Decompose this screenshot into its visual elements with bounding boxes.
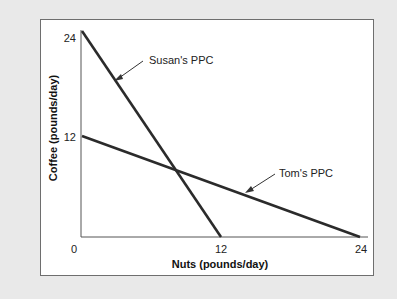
tom-arrowhead-icon bbox=[245, 186, 254, 193]
susan-arrow bbox=[119, 61, 143, 78]
y-tick-24: 24 bbox=[64, 32, 76, 44]
x-tick-12: 12 bbox=[215, 243, 227, 255]
x-tick-24: 24 bbox=[355, 243, 367, 255]
y-tick-12: 12 bbox=[64, 131, 76, 143]
ppc-chart: 24 12 0 12 24 Nuts (pounds/day) Coffee (… bbox=[0, 0, 397, 299]
tom-ppc-line bbox=[82, 136, 360, 237]
tom-ppc-label: Tom's PPC bbox=[279, 167, 333, 179]
x-axis-title: Nuts (pounds/day) bbox=[172, 258, 269, 270]
susan-ppc-label: Susan's PPC bbox=[149, 54, 214, 66]
y-axis-title: Coffee (pounds/day) bbox=[47, 75, 59, 182]
origin-label: 0 bbox=[71, 243, 77, 255]
tom-arrow bbox=[250, 174, 275, 190]
susan-arrowhead-icon bbox=[114, 74, 123, 81]
